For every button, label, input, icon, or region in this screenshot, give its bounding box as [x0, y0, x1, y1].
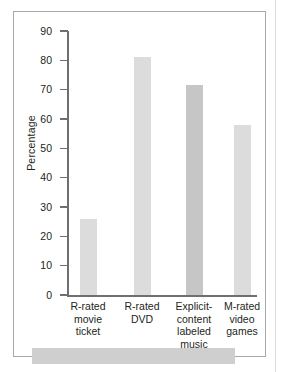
y-axis-tick-label: 60	[28, 114, 52, 124]
figure-frame: Percentage 9080706050403020100 R-ratedmo…	[13, 11, 266, 357]
y-axis-tick-label: 70	[28, 84, 52, 94]
y-axis-tick-mark	[60, 206, 68, 208]
y-axis-tick-mark	[60, 89, 68, 91]
y-axis-tick-label: 50	[28, 143, 52, 153]
page-edge-rule	[275, 0, 276, 372]
y-axis-tick-mark	[60, 177, 68, 179]
y-axis-tick-label: 10	[28, 260, 52, 270]
y-axis-tick-mark	[60, 60, 68, 62]
y-axis-tick-label: 0	[28, 290, 52, 300]
y-axis-tick-mark	[60, 30, 68, 32]
y-axis-tick-label: 40	[28, 172, 52, 182]
x-axis-label-line: M-rated	[211, 300, 273, 313]
x-axis-label-1: R-ratedmovieticket	[57, 300, 119, 338]
x-axis-label-line: ticket	[57, 325, 119, 338]
y-axis-tick-label: 30	[28, 202, 52, 212]
y-axis-tick-mark	[60, 236, 68, 238]
decorative-band	[32, 348, 235, 364]
y-axis-tick-mark	[60, 148, 68, 150]
y-axis-tick-mark	[60, 294, 68, 296]
y-axis-tick-label: 90	[28, 26, 52, 36]
y-axis-tick-mark	[60, 265, 68, 267]
x-axis-label-line: movie	[57, 313, 119, 326]
bar-chart-plot-area: Percentage 9080706050403020100 R-ratedmo…	[14, 12, 267, 358]
y-axis-tick-label: 20	[28, 231, 52, 241]
y-axis-tick-mark	[60, 118, 68, 120]
bar-2	[134, 57, 151, 295]
x-axis-line	[67, 295, 257, 297]
bar-3	[186, 85, 203, 295]
x-axis-label-line: video	[211, 313, 273, 326]
y-axis-line	[67, 31, 69, 296]
bar-4	[234, 125, 251, 295]
bar-1	[80, 219, 97, 295]
x-axis-label-line: games	[211, 325, 273, 338]
x-axis-label-4: M-ratedvideogames	[211, 300, 273, 338]
x-axis-label-line: R-rated	[57, 300, 119, 313]
y-axis-tick-label: 80	[28, 55, 52, 65]
